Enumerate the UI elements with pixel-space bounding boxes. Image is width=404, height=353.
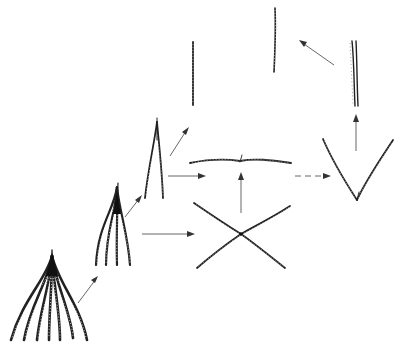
arrow-doublerod-to-rodB (299, 40, 334, 65)
arrow-fan4-to-xcross (142, 231, 195, 237)
fork-2-rays (145, 118, 163, 198)
diagram-canvas (0, 0, 404, 353)
v-shape (323, 139, 393, 200)
arrow-fork2-to-hbar (168, 173, 206, 179)
single-rod-b (274, 8, 275, 72)
arrow-vshape-to-doublerod (353, 114, 359, 151)
arrow-hbar-to-vshape-dashed (295, 173, 331, 179)
arrow-xcross-to-hbar (238, 172, 244, 213)
fan-7-rays (11, 250, 87, 340)
arrow-fan7-to-fan4 (78, 276, 98, 303)
fan-4-rays (96, 183, 130, 265)
x-cross (194, 203, 290, 268)
double-rod (350, 41, 358, 106)
arrow-fan4-to-fork2 (125, 195, 142, 217)
arrow-fork2-to-rodA (170, 127, 189, 156)
horizontal-bar (190, 155, 291, 163)
